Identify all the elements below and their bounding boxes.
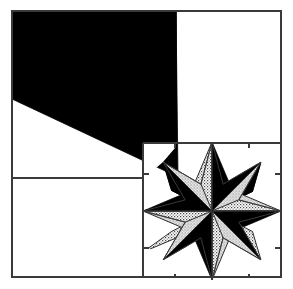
star-seam-outlines [143, 142, 281, 280]
eight-pointed-star [143, 142, 281, 280]
quilt-block-figure [0, 0, 293, 289]
figure-canvas [0, 0, 293, 289]
